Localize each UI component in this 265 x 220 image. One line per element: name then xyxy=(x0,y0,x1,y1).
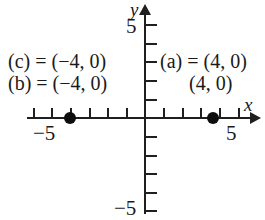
x-axis-tick xyxy=(163,108,165,119)
x-axis-tick xyxy=(89,108,91,119)
x-axis-tick-label-five: 5 xyxy=(226,123,237,144)
x-axis-tick xyxy=(107,108,109,119)
y-axis-tick xyxy=(146,61,157,63)
y-axis-tick xyxy=(146,136,157,138)
x-axis-tick xyxy=(182,108,184,119)
data-point-negative-four-zero xyxy=(64,112,76,124)
y-axis-tick xyxy=(146,155,157,157)
x-axis-tick xyxy=(51,108,53,119)
x-axis-tick xyxy=(126,108,128,119)
y-axis-tick xyxy=(146,173,157,175)
x-axis-label: x xyxy=(244,95,252,114)
x-axis-tick xyxy=(200,108,202,119)
data-point-four-zero xyxy=(207,112,219,124)
x-axis-tick xyxy=(238,108,240,119)
y-axis-tick xyxy=(146,24,157,26)
y-axis-arrowhead-icon xyxy=(139,4,151,15)
y-axis-tick xyxy=(146,80,157,82)
annotation-c-equals: (c) = (−4, 0) xyxy=(8,50,106,72)
annotation-a-equals: (a) = (4, 0) xyxy=(160,50,247,72)
annotation-b-equals: (b) = (−4, 0) xyxy=(8,72,107,94)
y-axis-tick xyxy=(146,99,157,101)
y-axis-tick-label-negative-five: −5 xyxy=(114,198,136,219)
y-axis-label: y xyxy=(130,0,138,19)
y-axis-tick xyxy=(146,192,157,194)
x-axis-tick-label-negative-five: −5 xyxy=(33,123,55,144)
annotation-four-zero: (4, 0) xyxy=(189,72,232,94)
y-axis-tick xyxy=(146,43,157,45)
coordinate-plane-figure: −5 5 5 −5 y x (c) = (−4, 0) (b) = (−4, 0… xyxy=(0,0,265,220)
x-axis-tick xyxy=(219,108,221,119)
x-axis-tick xyxy=(33,108,35,119)
y-axis-tick xyxy=(146,210,157,212)
